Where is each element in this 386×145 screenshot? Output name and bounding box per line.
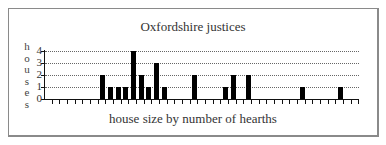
y-tick-label: 2: [32, 68, 42, 80]
x-tick-mark: [243, 100, 244, 104]
x-tick-mark: [289, 100, 290, 104]
x-tick-mark: [113, 100, 114, 104]
x-tick-mark: [67, 100, 68, 104]
x-tick-mark: [351, 100, 352, 104]
bar: [231, 75, 236, 99]
x-tick-mark: [144, 100, 145, 104]
bar: [108, 87, 113, 99]
x-tick-mark: [228, 100, 229, 104]
y-tick-label: 4: [32, 44, 42, 56]
bar: [338, 87, 343, 99]
x-tick-mark: [259, 100, 260, 104]
x-tick-mark: [174, 100, 175, 104]
x-tick-mark: [251, 100, 252, 104]
bar: [100, 75, 105, 99]
x-tick-mark: [266, 100, 267, 104]
x-tick-mark: [312, 100, 313, 104]
bar: [192, 75, 197, 99]
x-tick-mark: [128, 100, 129, 104]
x-tick-mark: [274, 100, 275, 104]
y-axis-label: houses: [22, 41, 32, 110]
x-tick-mark: [182, 100, 183, 104]
y-tick-label: 3: [32, 56, 42, 68]
gridline: [45, 75, 359, 76]
chart-title: Oxfordshire justices: [0, 19, 386, 35]
x-tick-mark: [320, 100, 321, 104]
bar: [131, 51, 136, 99]
gridline: [45, 63, 359, 64]
x-tick-mark: [59, 100, 60, 104]
bar: [246, 75, 251, 99]
x-tick-mark: [220, 100, 221, 104]
x-tick-mark: [90, 100, 91, 104]
x-tick-mark: [98, 100, 99, 104]
gridline: [45, 51, 359, 52]
x-tick-mark: [213, 100, 214, 104]
x-tick-mark: [282, 100, 283, 104]
x-tick-mark: [305, 100, 306, 104]
x-tick-mark: [197, 100, 198, 104]
bar: [123, 87, 128, 99]
x-tick-mark: [236, 100, 237, 104]
y-axis-label-letter: e: [22, 87, 32, 99]
x-tick-mark: [343, 100, 344, 104]
bar: [139, 75, 144, 99]
y-tick-label: 0: [32, 92, 42, 104]
bar: [116, 87, 121, 99]
bar: [162, 87, 167, 99]
x-tick-mark: [297, 100, 298, 104]
x-tick-mark: [82, 100, 83, 104]
x-tick-mark: [75, 100, 76, 104]
y-axis-label-letter: u: [22, 64, 32, 76]
gridline: [45, 87, 359, 88]
x-tick-mark: [136, 100, 137, 104]
y-tick-label: 1: [32, 80, 42, 92]
bar: [146, 87, 151, 99]
x-tick-mark: [151, 100, 152, 104]
y-axis-label-letter: h: [22, 41, 32, 53]
x-tick-mark: [52, 100, 53, 104]
x-tick-mark: [121, 100, 122, 104]
x-axis-label: house size by number of hearths: [0, 111, 386, 127]
bar: [300, 87, 305, 99]
bar: [154, 63, 159, 99]
x-tick-mark: [167, 100, 168, 104]
x-tick-mark: [205, 100, 206, 104]
y-axis-label-letter: s: [22, 99, 32, 111]
x-tick-mark: [328, 100, 329, 104]
y-axis: [44, 50, 45, 100]
x-tick-mark: [358, 100, 359, 104]
x-tick-mark: [190, 100, 191, 104]
bar: [223, 87, 228, 99]
x-tick-mark: [159, 100, 160, 104]
x-tick-mark: [105, 100, 106, 104]
x-tick-mark: [335, 100, 336, 104]
